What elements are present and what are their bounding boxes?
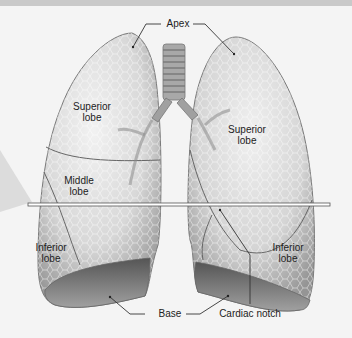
pointer-triangle bbox=[0, 150, 32, 212]
trachea bbox=[152, 44, 198, 122]
label-inferior-lobe-right: Inferior lobe bbox=[33, 242, 69, 264]
label-inferior-lobe-left: Inferior lobe bbox=[270, 242, 306, 264]
label-superior-lobe-right: Superior lobe bbox=[72, 101, 112, 123]
label-apex: Apex bbox=[164, 18, 192, 29]
left-lung bbox=[188, 37, 315, 311]
right-lung bbox=[38, 33, 161, 307]
label-base: Base bbox=[156, 308, 184, 319]
label-superior-lobe-left: Superior lobe bbox=[227, 124, 267, 146]
label-middle-lobe: Middle lobe bbox=[59, 175, 99, 197]
section-plane-line bbox=[28, 203, 330, 206]
lungs-illustration bbox=[0, 0, 352, 338]
label-cardiac-notch: Cardiac notch bbox=[214, 308, 286, 319]
